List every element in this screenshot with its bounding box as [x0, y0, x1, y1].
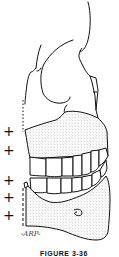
plus-marker-3: + — [3, 173, 15, 187]
plus-marker-5: + — [3, 208, 15, 222]
plus-marker-1: + — [3, 124, 15, 138]
plus-marker-2: + — [3, 143, 15, 157]
artist-signature: -ARP- — [21, 230, 40, 238]
plus-marker-4: + — [3, 190, 15, 204]
figure-caption: FIGURE 3-36 — [40, 250, 88, 257]
skull-jaw-illustration — [0, 0, 119, 257]
cranium-outline — [25, 2, 90, 116]
